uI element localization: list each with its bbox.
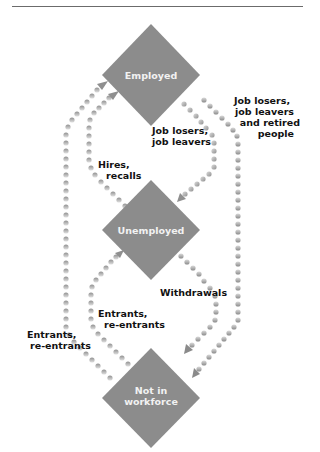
node-employed-label: Employed bbox=[111, 70, 191, 81]
label-line: recalls bbox=[98, 170, 141, 181]
node-not-in-workforce-label: Not in workforce bbox=[106, 385, 196, 407]
edge-unemployed-to-employed bbox=[86, 91, 127, 209]
label-line: job leavers bbox=[152, 136, 211, 147]
label-line: re-entrants bbox=[27, 340, 91, 351]
edge-label-hires-recalls: Hires, recalls bbox=[98, 159, 141, 181]
node-not-in-workforce-line2: workforce bbox=[106, 396, 196, 407]
edge-unemployed-to-not-in-workforce bbox=[178, 253, 218, 354]
label-line: Hires, bbox=[98, 159, 141, 170]
edge-label-job-losers-retired: Job losers, job leavers and retired peop… bbox=[212, 95, 300, 139]
edge-label-entrants-inner: Entrants, re-entrants bbox=[98, 308, 165, 330]
label-line: Entrants, bbox=[27, 329, 91, 340]
edge-label-withdrawals: Withdrawals bbox=[160, 287, 227, 298]
edge-label-job-losers-inner: Job losers, job leavers bbox=[152, 125, 211, 147]
label-line: re-entrants bbox=[98, 319, 165, 330]
label-line: Job losers, bbox=[152, 125, 211, 136]
edge-label-entrants-outer: Entrants, re-entrants bbox=[27, 329, 91, 351]
label-line: and retired bbox=[212, 117, 300, 128]
label-line: Entrants, bbox=[98, 308, 165, 319]
label-line: Job losers, bbox=[212, 95, 300, 106]
label-line: people bbox=[212, 128, 300, 139]
node-not-in-workforce-line1: Not in bbox=[106, 385, 196, 396]
label-line: job leavers bbox=[212, 106, 300, 117]
edge-employed-to-unemployed bbox=[177, 101, 217, 202]
node-unemployed-label: Unemployed bbox=[106, 225, 196, 236]
